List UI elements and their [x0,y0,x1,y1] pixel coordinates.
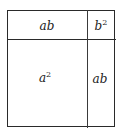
label-exponent: 2 [102,18,107,27]
region-label-bottom-right: ab [93,73,108,85]
area-diagram: ab b2 a2 ab [0,0,123,135]
region-label-top-right: b2 [95,19,108,32]
label-base: b [95,19,103,33]
region-label-bottom-left: a2 [39,71,51,84]
vertical-divider [87,10,88,128]
label-base: ab [40,19,55,33]
label-base: ab [93,72,108,86]
horizontal-divider [7,39,116,40]
region-label-top-left: ab [40,20,55,32]
label-exponent: 2 [46,70,51,79]
